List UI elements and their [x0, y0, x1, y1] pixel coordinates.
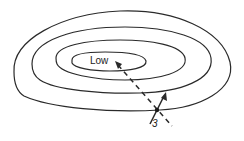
outer-contour	[14, 11, 231, 111]
low-label: Low	[90, 56, 108, 66]
step-label: 3	[152, 119, 158, 129]
contour-svg	[0, 0, 244, 141]
inner-contour	[72, 52, 146, 71]
third-contour	[56, 40, 185, 80]
second-contour	[32, 27, 211, 93]
contour-diagram: Low 3	[0, 0, 244, 141]
current-point	[155, 108, 159, 112]
